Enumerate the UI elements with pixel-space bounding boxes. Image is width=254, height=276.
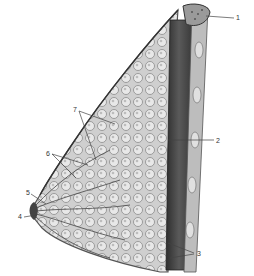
label-4: 4 <box>18 213 22 220</box>
label-1: 1 <box>236 14 240 21</box>
label-7: 7 <box>73 106 77 113</box>
label-2: 2 <box>216 137 220 144</box>
label-6: 6 <box>46 150 50 157</box>
label-5: 5 <box>26 189 30 196</box>
label-3: 3 <box>197 250 201 257</box>
